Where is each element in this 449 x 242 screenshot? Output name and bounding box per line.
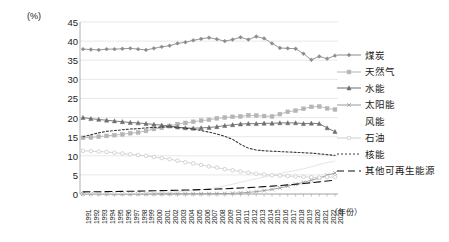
x-axis-tick-label: 2015 [274, 210, 281, 224]
x-axis-tick-label: 2013 [259, 210, 266, 224]
y-axis-tick: 40 [67, 36, 78, 47]
data-point-circle [231, 169, 235, 173]
data-point-square [325, 106, 329, 110]
legend-label: 其他可再生能源 [365, 166, 435, 176]
data-point-diamond [113, 47, 117, 51]
line-marker-none-icon [336, 114, 362, 128]
y-axis-tick: 20 [67, 112, 78, 123]
x-axis-tick-label: 2021 [322, 210, 329, 224]
data-point-square [223, 116, 227, 120]
y-axis-tick: 45 [67, 17, 78, 28]
data-point-circle [247, 171, 251, 175]
x-axis-tick-label: 1995 [117, 210, 124, 224]
legend-label: 太阳能 [365, 100, 395, 110]
data-point-diamond [168, 44, 172, 48]
y-axis-tick: 15 [67, 131, 78, 142]
data-point-diamond [199, 37, 203, 41]
data-point-square [286, 110, 290, 114]
data-point-circle [325, 175, 329, 179]
data-point-square [254, 114, 258, 118]
data-point-square [262, 114, 266, 118]
data-point-circle [239, 170, 243, 174]
x-axis-tick-labels: 1991199219931994199519961997199819992000… [80, 196, 338, 242]
y-axis-tick: 30 [67, 74, 78, 85]
data-point-circle [294, 175, 298, 179]
plot-area [80, 22, 338, 194]
line-marker-triangle-icon [336, 81, 362, 95]
data-point-diamond [347, 53, 351, 57]
data-point-circle [199, 163, 203, 167]
data-point-diamond [136, 47, 140, 51]
data-point-square [347, 70, 351, 74]
x-axis-tick-label: 1996 [125, 210, 132, 224]
data-point-square [270, 115, 274, 119]
data-point-circle [184, 160, 188, 164]
x-axis-tick-label: 1997 [133, 210, 140, 224]
line-marker-circle-icon [336, 131, 362, 145]
x-axis-tick-label: 2017 [290, 210, 297, 224]
x-axis-tick-label: 1998 [141, 210, 148, 224]
data-point-square [191, 120, 195, 124]
data-point-square [136, 131, 140, 135]
series-1 [81, 35, 337, 62]
data-point-square [302, 107, 306, 111]
data-point-square [294, 109, 298, 113]
data-point-circle [121, 152, 125, 156]
x-axis-tick-label: 2006 [204, 210, 211, 224]
x-axis-tick-label: 2010 [235, 210, 242, 224]
data-point-triangle [325, 126, 329, 130]
data-point-square [278, 112, 282, 116]
legend-label: 天然气 [365, 67, 395, 77]
data-point-diamond [215, 37, 219, 41]
data-point-diamond [81, 47, 85, 51]
legend-item-7[interactable]: 核能 [336, 146, 448, 163]
legend-item-5[interactable]: 风能 [336, 113, 448, 130]
data-point-diamond [89, 48, 93, 52]
data-point-circle [168, 157, 172, 161]
legend-item-1[interactable]: 煤炭 [336, 47, 448, 64]
x-axis-tick-label: 1991 [85, 210, 92, 224]
x-axis-tick-label: 2019 [306, 210, 313, 224]
y-axis-tick-labels: 454035302520151050 [30, 0, 78, 242]
x-axis-tick-label: 1992 [93, 210, 100, 224]
data-point-diamond [105, 47, 109, 51]
data-point-square [215, 116, 219, 120]
data-point-square [183, 121, 187, 125]
line-dashed-icon [336, 164, 362, 178]
data-point-circle [254, 172, 258, 176]
data-point-diamond [207, 36, 211, 40]
legend-label: 风能 [365, 117, 385, 127]
x-axis-tick-label: 2011 [243, 210, 250, 224]
legend-item-3[interactable]: 水能 [336, 80, 448, 97]
legend-item-4[interactable]: 太阳能 [336, 97, 448, 114]
data-point-diamond [317, 55, 321, 59]
data-point-circle [302, 175, 306, 179]
data-point-circle [113, 151, 117, 155]
legend-item-2[interactable]: 天然气 [336, 64, 448, 81]
line-marker-square-icon [336, 65, 362, 79]
data-point-square [246, 113, 250, 117]
data-point-diamond [278, 46, 282, 50]
data-point-square [199, 119, 203, 123]
x-axis-tick-label: 2012 [251, 210, 258, 224]
data-point-circle [207, 165, 211, 169]
data-point-diamond [120, 47, 124, 51]
data-point-circle [278, 174, 282, 178]
data-point-diamond [223, 39, 227, 43]
legend-item-6[interactable]: 石油 [336, 130, 448, 147]
data-point-diamond [239, 35, 243, 39]
x-axis-tick-label: 2018 [298, 210, 305, 224]
series-2 [81, 105, 337, 140]
data-point-square [231, 115, 235, 119]
line-marker-diamond-icon [336, 48, 362, 62]
legend-item-8[interactable]: 其他可再生能源 [336, 163, 448, 180]
data-point-square [317, 105, 321, 109]
data-point-diamond [254, 35, 258, 39]
data-point-circle [105, 150, 109, 154]
data-point-diamond [160, 45, 164, 49]
data-point-square [89, 136, 93, 140]
data-point-square [97, 135, 101, 139]
data-point-circle [97, 150, 101, 154]
data-point-diamond [191, 38, 195, 42]
x-axis-tick-label: 2016 [282, 210, 289, 224]
